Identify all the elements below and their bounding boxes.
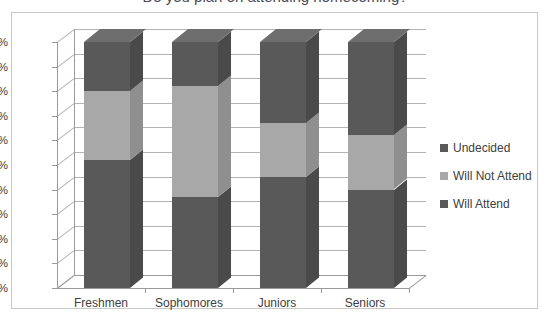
plot-area: 0%10%20%30%40%50%60%70%80%90%100%Freshme… — [57, 42, 409, 288]
legend-item[interactable]: Will Attend — [440, 197, 540, 211]
chart-legend: UndecidedWill Not AttendWill Attend — [440, 141, 540, 225]
floor-depth-edge — [409, 275, 427, 289]
legend-item-label: Undecided — [453, 141, 510, 155]
bar-segment[interactable] — [84, 91, 130, 160]
segment-front-face — [348, 190, 394, 288]
x-axis-tick-label: Sophomores — [143, 296, 235, 310]
bar-segment[interactable] — [348, 42, 394, 135]
segment-side-face — [306, 167, 319, 288]
bar-segment[interactable] — [172, 86, 218, 197]
legend-swatch-icon — [440, 172, 448, 180]
y-axis-tick-label: 40% — [0, 185, 8, 195]
bar-segment[interactable] — [348, 190, 394, 288]
legend-item[interactable]: Undecided — [440, 141, 540, 155]
segment-front-face — [260, 42, 306, 123]
gridline-connector — [57, 54, 75, 68]
bar-freshmen[interactable] — [84, 42, 130, 288]
bar-seniors[interactable] — [348, 42, 394, 288]
segment-front-face — [84, 160, 130, 288]
segment-side-face — [130, 81, 143, 160]
gridline-connector — [57, 201, 75, 215]
bar-segment[interactable] — [84, 160, 130, 288]
cut-off-title: Do you plan on attending homecoming? — [0, 0, 550, 9]
legend-item[interactable]: Will Not Attend — [440, 169, 540, 183]
gridline-connector — [57, 152, 75, 166]
y-axis-tick-label: 0% — [0, 283, 8, 293]
y-axis-tick-label: 10% — [0, 258, 8, 268]
segment-side-face — [394, 31, 407, 135]
y-axis-tick-label: 100% — [0, 37, 8, 47]
x-axis-tick-mark — [409, 288, 410, 293]
y-axis-tick-label: 20% — [0, 234, 8, 244]
bar-segment[interactable] — [172, 197, 218, 288]
segment-front-face — [172, 197, 218, 288]
gridline-connector — [57, 226, 75, 240]
segment-side-face — [218, 76, 231, 197]
segment-side-face — [394, 179, 407, 288]
legend-item-label: Will Not Attend — [453, 169, 532, 183]
segment-front-face — [172, 86, 218, 197]
segment-side-face — [306, 31, 319, 123]
bar-segment[interactable] — [260, 42, 306, 123]
gridline-connector — [57, 103, 75, 117]
gridline-connector — [57, 78, 75, 92]
segment-side-face — [218, 186, 231, 288]
gridline-connector — [57, 29, 75, 43]
x-axis-tick-mark — [321, 288, 322, 293]
y-axis-tick-label: 50% — [0, 160, 8, 170]
y-axis-back-line — [74, 29, 75, 275]
floor-depth-edge — [57, 275, 75, 289]
segment-front-face — [348, 135, 394, 189]
bar-sophomores[interactable] — [172, 42, 218, 288]
segment-front-face — [84, 42, 130, 91]
bar-segment[interactable] — [260, 123, 306, 177]
y-axis-tick-label: 30% — [0, 209, 8, 219]
segment-front-face — [172, 42, 218, 86]
bar-segment[interactable] — [84, 42, 130, 91]
x-axis-tick-label: Juniors — [231, 296, 323, 310]
x-axis-tick-mark — [145, 288, 146, 293]
chart-title-text: Do you plan on attending homecoming? — [0, 0, 550, 5]
chart-frame: 0%10%20%30%40%50%60%70%80%90%100%Freshme… — [11, 12, 538, 309]
x-axis-tick-label: Seniors — [319, 296, 411, 310]
bar-segment[interactable] — [348, 135, 394, 189]
segment-side-face — [130, 150, 143, 288]
segment-side-face — [306, 113, 319, 178]
segment-front-face — [348, 42, 394, 135]
segment-front-face — [260, 177, 306, 288]
y-axis-tick-label: 80% — [0, 86, 8, 96]
gridline-connector — [57, 250, 75, 264]
y-axis-line — [57, 42, 58, 288]
y-axis-tick-label: 90% — [0, 62, 8, 72]
bar-segment[interactable] — [260, 177, 306, 288]
legend-swatch-icon — [440, 144, 448, 152]
y-axis-tick-label: 70% — [0, 111, 8, 121]
bar-juniors[interactable] — [260, 42, 306, 288]
segment-side-face — [394, 125, 407, 190]
x-axis-tick-label: Freshmen — [55, 296, 147, 310]
y-axis-tick-label: 60% — [0, 135, 8, 145]
gridline-connector — [57, 127, 75, 141]
segment-front-face — [260, 123, 306, 177]
gridline-connector — [57, 177, 75, 191]
segment-front-face — [84, 91, 130, 160]
legend-swatch-icon — [440, 200, 448, 208]
legend-item-label: Will Attend — [453, 197, 510, 211]
bar-segment[interactable] — [172, 42, 218, 86]
x-axis-tick-mark — [233, 288, 234, 293]
